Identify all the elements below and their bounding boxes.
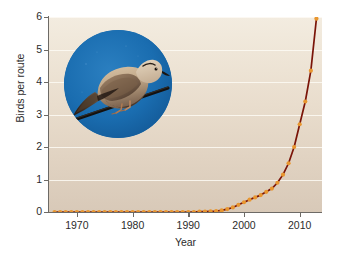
y-tick-mark xyxy=(44,147,48,148)
y-tick-mark xyxy=(44,212,48,213)
data-point-marker xyxy=(236,203,240,207)
data-point-marker xyxy=(298,122,302,126)
data-point-marker xyxy=(225,207,229,211)
data-point-marker xyxy=(259,193,263,197)
data-point-marker xyxy=(292,145,296,149)
x-tick-mark xyxy=(300,213,301,217)
y-tick-mark xyxy=(44,115,48,116)
chart-figure: 0123456 19701980199020002010 Birds per r… xyxy=(0,0,338,265)
y-axis-spine xyxy=(48,16,49,213)
data-point-marker xyxy=(314,17,318,21)
x-tick-label: 2010 xyxy=(277,219,323,231)
y-tick-mark xyxy=(44,82,48,83)
data-point-marker xyxy=(281,173,285,177)
y-tick-label: 1 xyxy=(20,174,42,185)
data-point-marker xyxy=(275,181,279,185)
x-tick-label: 1980 xyxy=(110,219,156,231)
data-point-marker xyxy=(303,99,307,103)
x-axis-spine xyxy=(48,212,322,213)
dove-photo-inset xyxy=(64,30,172,138)
data-point-marker xyxy=(270,187,274,191)
data-point-marker xyxy=(253,195,257,199)
y-tick-label: 6 xyxy=(20,11,42,22)
data-point-marker xyxy=(286,161,290,165)
x-tick-mark xyxy=(133,213,134,217)
x-tick-label: 1990 xyxy=(165,219,211,231)
data-point-marker xyxy=(247,198,251,202)
y-tick-mark xyxy=(44,17,48,18)
y-tick-label: 0 xyxy=(20,206,42,217)
x-tick-mark xyxy=(77,213,78,217)
data-point-marker xyxy=(309,69,313,73)
x-tick-label: 1970 xyxy=(54,219,100,231)
dove-photo-illustration xyxy=(64,30,172,138)
x-tick-mark xyxy=(244,213,245,217)
x-axis-title: Year xyxy=(49,236,322,248)
y-axis-title: Birds per route xyxy=(14,28,26,148)
x-tick-label: 2000 xyxy=(221,219,267,231)
y-tick-mark xyxy=(44,50,48,51)
y-tick-mark xyxy=(44,180,48,181)
x-tick-mark xyxy=(188,213,189,217)
data-point-marker xyxy=(242,200,246,204)
data-point-marker xyxy=(231,205,235,209)
data-point-marker xyxy=(264,190,268,194)
